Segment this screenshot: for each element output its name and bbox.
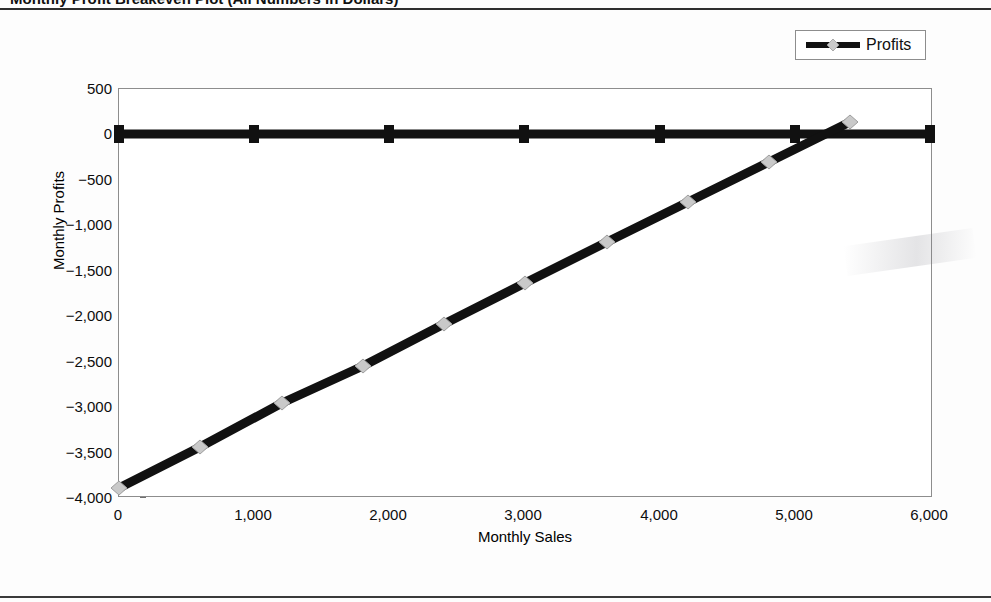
plot-area	[118, 88, 932, 497]
chart-legend: Profits	[795, 30, 926, 60]
x-tick-label: 5,000	[775, 506, 813, 523]
y-tick-label: −4,000	[66, 489, 112, 506]
y-tick-label: −3,500	[66, 444, 112, 461]
bottom-rule	[0, 596, 991, 598]
x-tick-label: 0	[114, 506, 122, 523]
x-tick-label: 1,000	[234, 506, 272, 523]
x-tick-label: 4,000	[640, 506, 678, 523]
chart-page: Monthly Profit Breakeven Plot (All Numbe…	[0, 0, 991, 602]
y-tick-label: 0	[104, 125, 112, 142]
x-tick-label: 3,000	[504, 506, 542, 523]
y-tick-label: −1,500	[66, 262, 112, 279]
y-tick-label: −2,000	[66, 307, 112, 324]
y-tick-label: −1,000	[66, 216, 112, 233]
x-tick-label: 6,000	[910, 506, 948, 523]
y-tick-label: −3,000	[66, 398, 112, 415]
top-rule	[0, 8, 991, 10]
x-axis-title: Monthly Sales	[118, 528, 932, 545]
chart-title: Monthly Profit Breakeven Plot (All Numbe…	[10, 0, 398, 7]
series-profits	[111, 115, 858, 495]
y-tick-label: −2,500	[66, 353, 112, 370]
plot-svg	[119, 89, 931, 496]
legend-marker-icon	[806, 38, 860, 52]
x-tick-label: 2,000	[369, 506, 407, 523]
y-tick-label: 500	[87, 80, 112, 97]
y-axis-ticks: 500 0 −500 −1,000 −1,500 −2,000 −2,500 −…	[28, 12, 112, 572]
chart-container: Profits 500 0 −500 −1,000 −1,500 −2,000 …	[0, 12, 991, 572]
chart-title-clipped: Monthly Profit Breakeven Plot (All Numbe…	[0, 0, 991, 8]
y-axis-title: Monthly Profits	[50, 41, 67, 401]
y-tick-label: −500	[78, 171, 112, 188]
legend-label-profits: Profits	[866, 37, 911, 53]
